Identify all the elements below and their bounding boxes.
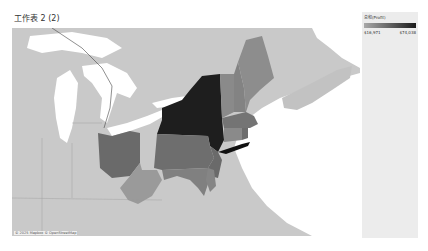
map-attribution[interactable]: © 2025 Mapbox © OpenStreetMap	[14, 231, 77, 235]
map-canvas[interactable]	[12, 28, 360, 236]
state-vermont[interactable]	[220, 74, 234, 118]
state-rhode-island[interactable]	[242, 128, 248, 140]
legend-max-label: $74,038	[399, 30, 416, 35]
color-legend: 总和(Profit) $16,971 $74,038	[362, 12, 418, 238]
state-ohio[interactable]	[98, 131, 140, 178]
state-pennsylvania[interactable]	[154, 134, 214, 170]
legend-title: 总和(Profit)	[364, 14, 386, 20]
filled-map[interactable]: © 2025 Mapbox © OpenStreetMap	[12, 28, 360, 236]
legend-min-label: $16,971	[364, 30, 381, 35]
sheet-title: 工作表 2 (2)	[14, 12, 60, 23]
state-connecticut[interactable]	[224, 128, 242, 142]
legend-gradient-bar	[364, 23, 416, 28]
